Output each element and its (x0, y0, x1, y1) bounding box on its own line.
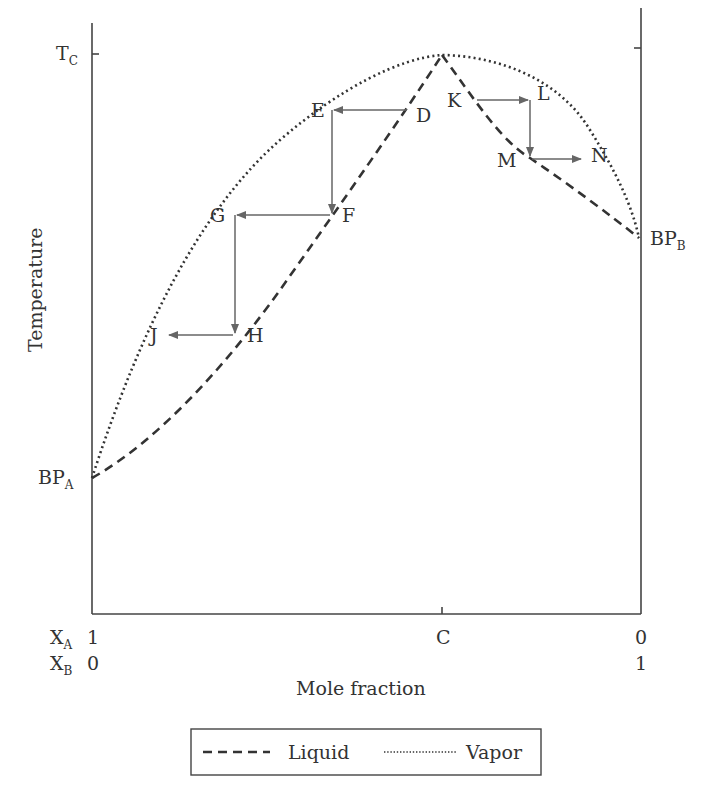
label-f: F (342, 204, 355, 226)
label-k: K (447, 89, 462, 111)
xa-label: XA (50, 626, 73, 652)
x-axis-label: Mole fraction (296, 677, 426, 699)
bpa-label: BPA (38, 466, 74, 492)
phase-diagram: E D F G H J K L M N TC BPA BPB Temperatu… (0, 0, 713, 787)
label-e: E (311, 99, 325, 121)
xa-left-value: 1 (87, 626, 99, 648)
label-d: D (416, 104, 431, 126)
xb-right-value: 1 (635, 652, 647, 674)
legend-liquid-label: Liquid (288, 741, 349, 763)
legend-vapor-label: Vapor (465, 741, 523, 763)
label-n: N (591, 144, 608, 166)
xb-left-value: 0 (87, 652, 99, 674)
label-j: J (148, 324, 158, 346)
y-axis-label: Temperature (24, 228, 46, 352)
label-g: G (210, 204, 225, 226)
xa-right-value: 0 (635, 626, 647, 648)
vapor-curve (92, 55, 639, 478)
label-m: M (497, 149, 516, 171)
label-l: L (537, 82, 550, 104)
label-h: H (247, 324, 264, 346)
tc-label: TC (56, 42, 78, 68)
liquid-curve (92, 55, 442, 478)
c-label: C (436, 626, 451, 648)
xb-label: XB (50, 652, 73, 678)
bpb-label: BPB (650, 227, 686, 253)
